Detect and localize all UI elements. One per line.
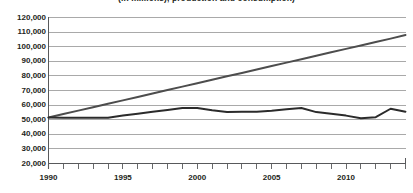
x-axis-tick-label: 2010 (337, 173, 355, 182)
x-axis-labels: 19901995200020052010 (0, 0, 413, 193)
x-axis-tick-label: 1995 (114, 173, 132, 182)
line-chart: (in millions), production and consumptio… (0, 0, 413, 193)
x-axis-tick-label: 1990 (40, 173, 58, 182)
x-axis-tick-label: 2000 (188, 173, 206, 182)
x-axis-tick-label: 2005 (263, 173, 281, 182)
